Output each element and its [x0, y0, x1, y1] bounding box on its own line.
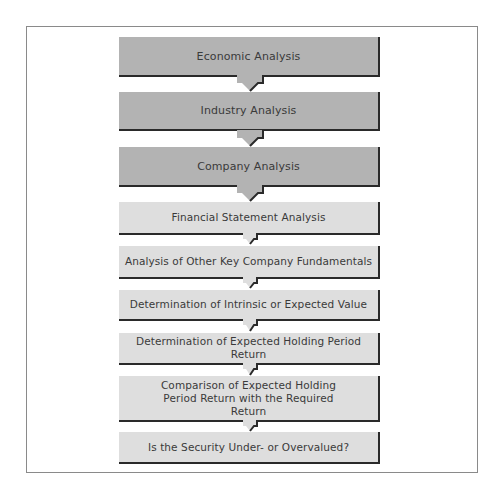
down-arrow-icon: [243, 233, 257, 244]
down-arrow-icon: [243, 319, 257, 331]
down-arrow-icon: [243, 277, 257, 288]
down-arrow-icon: [243, 363, 257, 375]
down-arrow-icon: [237, 185, 263, 201]
down-arrow-icon: [237, 130, 263, 146]
connectors: [0, 0, 504, 500]
down-arrow-icon: [243, 420, 257, 431]
down-arrow-icon: [237, 75, 263, 91]
